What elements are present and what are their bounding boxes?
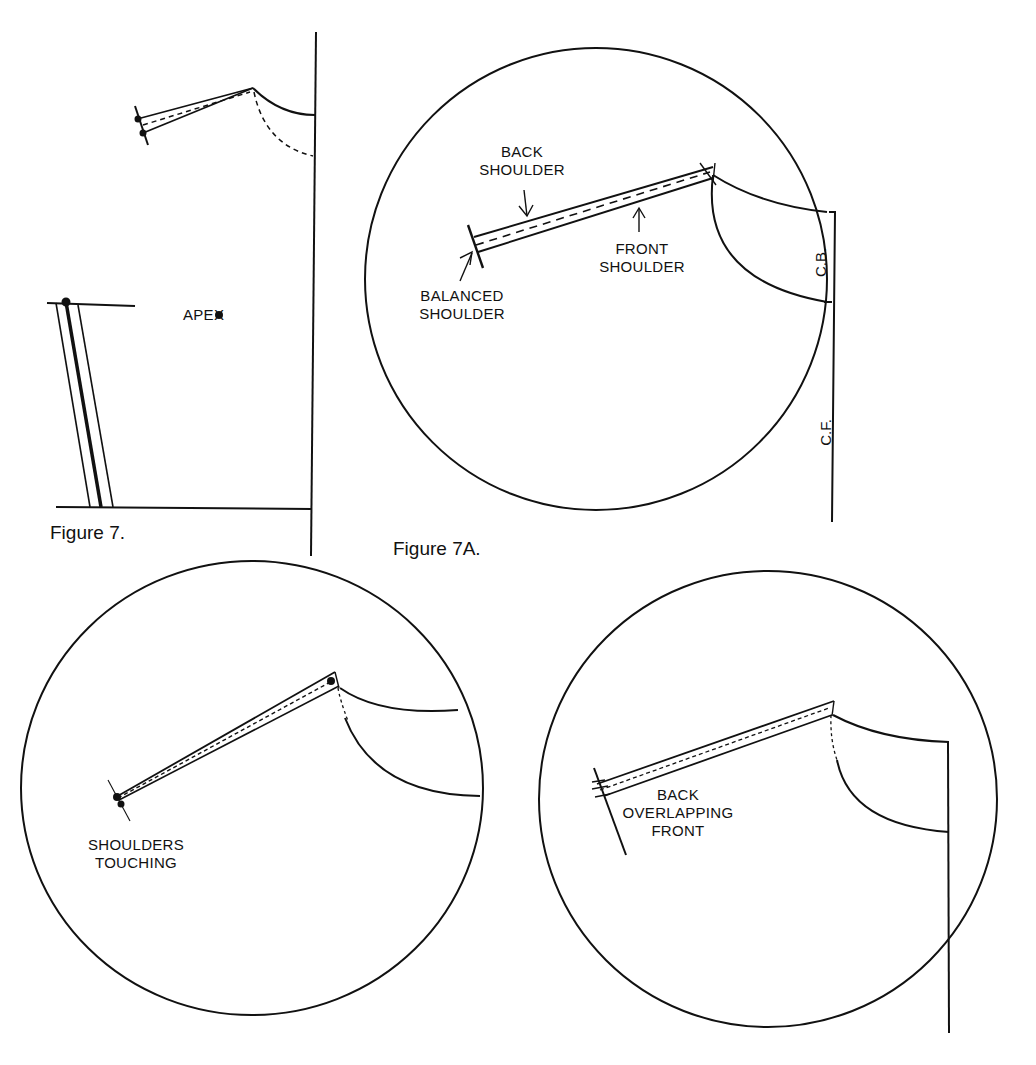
apex-label: APEX <box>183 306 224 324</box>
front-shoulder-label: FRONTSHOULDER <box>582 240 702 276</box>
figure-7a-caption: Figure 7A. <box>393 538 481 560</box>
back-shoulder-label: BACKSHOULDER <box>462 143 582 179</box>
figure-7-drawing <box>47 32 316 556</box>
figure-7a-drawing <box>365 48 835 522</box>
shoulders-touching-label: SHOULDERSTOUCHING <box>66 836 206 872</box>
center-front-label: C.F. <box>817 419 834 446</box>
shoulders-touching-drawing <box>21 561 483 1015</box>
center-back-label: C.B. <box>812 248 829 277</box>
back-overlapping-front-drawing <box>539 571 997 1033</box>
balanced-shoulder-label: BALANCEDSHOULDER <box>400 287 524 323</box>
balanced-shoulder-arrow <box>460 252 472 281</box>
front-shoulder-arrow <box>633 208 645 232</box>
figure-7-caption: Figure 7. <box>50 522 125 544</box>
back-shoulder-arrow <box>519 190 533 216</box>
back-overlapping-front-label: BACKOVERLAPPINGFRONT <box>618 786 738 840</box>
